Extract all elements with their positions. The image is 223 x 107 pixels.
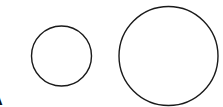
circles-diagram bbox=[0, 0, 223, 107]
large-circle bbox=[119, 7, 218, 106]
small-circle bbox=[32, 26, 92, 86]
